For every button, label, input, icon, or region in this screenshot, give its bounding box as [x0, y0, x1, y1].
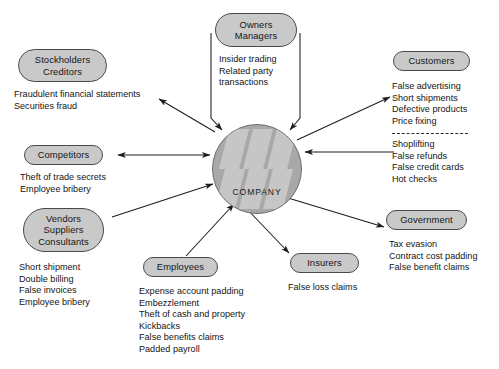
list-item: Defective products — [392, 104, 467, 116]
list-government: Tax evasion Contract cost padding False … — [389, 239, 477, 274]
list-owners: Insider trading Related party transactio… — [219, 54, 277, 89]
company-label: COMPANY — [213, 187, 301, 197]
list-item: Related party — [219, 66, 277, 78]
list-stockholders: Fraudulent financial statements Securiti… — [14, 89, 140, 112]
list-vendors: Short shipment Double billing False invo… — [19, 262, 90, 308]
list-customers-inbound: Shoplifting False refunds False credit c… — [392, 139, 464, 185]
node-owners-managers[interactable]: Owners Managers — [215, 13, 297, 47]
list-employees: Expense account padding Embezzlement The… — [139, 286, 245, 355]
node-insurers[interactable]: Insurers — [290, 253, 359, 273]
node-owners-line-1: Owners — [240, 19, 273, 30]
node-stockholders-line-2: Creditors — [43, 66, 82, 77]
list-item: Price fixing — [392, 116, 467, 128]
list-item: False benefit claims — [389, 262, 477, 274]
list-insurers: False loss claims — [288, 282, 357, 294]
node-vendors-line-1: Vendors — [46, 213, 81, 224]
list-item: Theft of cash and property — [139, 309, 245, 321]
node-vendors-suppliers-consultants[interactable]: Vendors Suppliers Consultants — [23, 208, 104, 252]
list-item: Embezzlement — [139, 298, 245, 310]
list-item: False invoices — [19, 285, 90, 297]
node-government[interactable]: Government — [386, 210, 467, 230]
arrow-company-to-insurers — [245, 207, 289, 253]
list-item: Insider trading — [219, 54, 277, 66]
node-stockholders-line-1: Stockholders — [35, 54, 90, 65]
node-stockholders-creditors[interactable]: Stockholders Creditors — [18, 49, 107, 82]
list-item: Contract cost padding — [389, 251, 477, 263]
list-item: Kickbacks — [139, 321, 245, 333]
list-item: Tax evasion — [389, 239, 477, 251]
list-item: Padded payroll — [139, 344, 245, 356]
node-competitors-label: Competitors — [38, 149, 90, 160]
arrow-company-to-stockholders — [159, 99, 215, 132]
list-item: False loss claims — [288, 282, 357, 294]
list-customers-outbound: False advertising Short shipments Defect… — [392, 81, 467, 127]
arrow-company-to-government — [288, 198, 384, 227]
node-competitors[interactable]: Competitors — [24, 145, 103, 165]
list-item: Theft of trade secrets — [20, 172, 106, 184]
arrow-vendors-to-company — [112, 184, 213, 217]
list-item: Shoplifting — [392, 139, 464, 151]
list-item: Double billing — [19, 274, 90, 286]
node-vendors-line-2: Suppliers — [44, 224, 84, 235]
node-insurers-label: Insurers — [307, 257, 342, 268]
diagram-canvas: COMPANY Stockholders Creditors Fraudulen… — [0, 0, 499, 369]
node-government-label: Government — [400, 214, 453, 225]
list-item: transactions — [219, 77, 277, 89]
node-customers-label: Customers — [408, 55, 454, 66]
list-item: Expense account padding — [139, 286, 245, 298]
list-item: Hot checks — [392, 174, 464, 186]
list-item: Short shipments — [392, 93, 467, 105]
list-item: Employee bribery — [19, 297, 90, 309]
customers-divider — [392, 133, 468, 134]
list-item: False benefits claims — [139, 332, 245, 344]
list-item: False refunds — [392, 151, 464, 163]
node-employees[interactable]: Employees — [143, 257, 218, 277]
list-item: Employee bribery — [20, 184, 106, 196]
node-owners-line-2: Managers — [235, 30, 278, 41]
company-pattern-icon — [213, 125, 301, 213]
list-item: Short shipment — [19, 262, 90, 274]
node-customers[interactable]: Customers — [393, 51, 470, 71]
list-item: False credit cards — [392, 162, 464, 174]
list-competitors: Theft of trade secrets Employee bribery — [20, 172, 106, 195]
arrow-company-to-customers — [297, 97, 390, 140]
company-node: COMPANY — [212, 124, 302, 214]
list-item: False advertising — [392, 81, 467, 93]
arrow-owners-right-to-company — [290, 33, 300, 130]
node-employees-label: Employees — [157, 261, 204, 272]
node-vendors-line-3: Consultants — [38, 236, 89, 247]
list-item: Fraudulent financial statements — [14, 89, 140, 101]
list-item: Securities fraud — [14, 101, 140, 113]
